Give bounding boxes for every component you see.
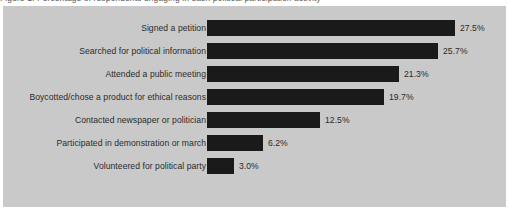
bar (207, 20, 455, 36)
bar-value-label: 27.5% (460, 20, 485, 36)
bar-value-label: 25.7% (443, 43, 468, 59)
bar-row: Boycotted/chose a product for ethical re… (3, 89, 506, 105)
bar-category-label: Searched for political information (79, 43, 206, 59)
bar (207, 135, 263, 151)
bar-row: Attended a public meeting21.3% (3, 66, 506, 82)
caption-text: Figure 1: Percentage of respondents enga… (0, 0, 321, 3)
bar-category-label: Participated in demonstration or march (57, 135, 207, 151)
bar-value-label: 19.7% (389, 89, 414, 105)
bar-chart-plot-area: Signed a petition27.5%Searched for polit… (3, 6, 506, 207)
bar-value-label: 12.5% (325, 112, 350, 128)
bar-category-label: Volunteered for political party (94, 158, 206, 174)
bar-value-label: 6.2% (268, 135, 288, 151)
bar-value-label: 21.3% (404, 66, 429, 82)
bar-value-label: 3.0% (239, 158, 259, 174)
bar (207, 89, 384, 105)
bar (207, 66, 399, 82)
bar-category-label: Contacted newspaper or politician (75, 112, 206, 128)
bar-row: Signed a petition27.5% (3, 20, 506, 36)
clipped-caption: Figure 1: Percentage of respondents enga… (0, 0, 509, 3)
bar-category-label: Attended a public meeting (105, 66, 206, 82)
chart-panel: Signed a petition27.5%Searched for polit… (3, 6, 506, 207)
bar (207, 158, 234, 174)
bar-row: Contacted newspaper or politician12.5% (3, 112, 506, 128)
bar-row: Searched for political information25.7% (3, 43, 506, 59)
bar (207, 112, 320, 128)
bar-category-label: Signed a petition (141, 20, 206, 36)
bar-category-label: Boycotted/chose a product for ethical re… (29, 89, 206, 105)
bar (207, 43, 438, 59)
bar-row: Participated in demonstration or march6.… (3, 135, 506, 151)
bar-row: Volunteered for political party3.0% (3, 158, 506, 174)
